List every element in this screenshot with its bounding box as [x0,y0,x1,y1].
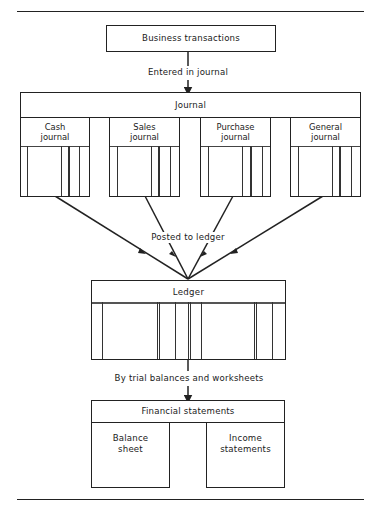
general-journal: Generaljournal [290,117,361,197]
edge-label-posted-to-ledger: Posted to ledger [140,232,236,243]
income-statements-label: Incomestatements [207,433,284,455]
sales-journal-columns [110,146,179,196]
financial-statements-label: Financial statements [92,406,284,417]
ledger-label: Ledger [173,287,204,297]
purchase-journal-title: Purchasejournal [201,118,270,147]
purchase-journal-columns [201,146,270,196]
journal-label: Journal [21,100,360,111]
general-journal-title: Generaljournal [291,118,360,147]
income-statements-box: Incomestatements [206,422,285,488]
sales-journal-title: Salesjournal [110,118,179,147]
balance-sheet-label: Balancesheet [92,433,169,455]
ledger-header: Ledger [92,281,285,304]
cash-journal-columns [21,146,89,196]
ledger-columns [92,302,285,359]
cash-journal: Cashjournal [20,117,90,197]
sales-journal: Salesjournal [109,117,180,197]
financial-statements-box: Financial statements [91,400,285,423]
general-journal-columns [291,146,360,196]
business-transactions-label: Business transactions [107,33,275,44]
balance-sheet-box: Balancesheet [91,422,170,488]
ledger-box: Ledger [91,280,286,360]
purchase-journal: Purchasejournal [200,117,271,197]
edge-label-trial-balances: By trial balances and worksheets [106,373,272,384]
business-transactions-box: Business transactions [106,25,276,52]
edge-label-entered-in-journal: Entered in journal [138,67,238,78]
cash-journal-title: Cashjournal [21,118,89,147]
journal-box: Journal [20,92,361,118]
